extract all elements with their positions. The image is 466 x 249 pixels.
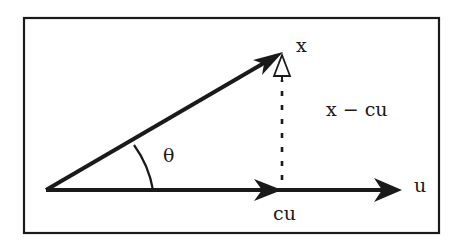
vector-x (46, 52, 283, 190)
projection-diagram: x x − cu u cu θ (0, 0, 466, 249)
label-x-minus-cu: x − cu (326, 98, 388, 120)
label-x: x (296, 34, 307, 56)
label-theta: θ (163, 144, 174, 166)
label-u: u (414, 174, 426, 196)
angle-arc (134, 145, 153, 190)
vector-x-minus-cu (274, 55, 290, 180)
vector-u (46, 178, 402, 202)
label-cu: cu (273, 202, 296, 224)
